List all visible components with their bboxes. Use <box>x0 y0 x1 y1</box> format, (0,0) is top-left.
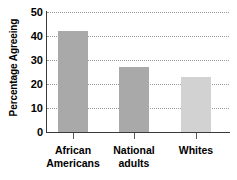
bar-national-adults <box>119 67 149 132</box>
x-category-label-whites: Whites <box>146 144 237 157</box>
y-tick-label-30: 30 <box>1 55 43 66</box>
bar-chart: Percentage Agreeing 50 40 30 20 10 0 Afr… <box>0 0 237 180</box>
y-tick-label-0: 0 <box>1 127 43 138</box>
x-category-label-line1: Whites <box>179 144 213 156</box>
y-tick-label-10: 10 <box>1 103 43 114</box>
x-category-label-line2: adults <box>84 157 184 170</box>
plot-area <box>47 12 229 132</box>
y-axis-line <box>46 11 47 133</box>
x-tick-african-americans <box>73 133 74 139</box>
gridline-50 <box>47 12 229 13</box>
x-tick-whites <box>196 133 197 139</box>
y-tick-label-20: 20 <box>1 79 43 90</box>
bar-african-americans <box>58 31 88 132</box>
x-tick-national-adults <box>134 133 135 139</box>
y-tick-label-40: 40 <box>1 31 43 42</box>
bar-whites <box>181 77 211 132</box>
y-tick-label-50: 50 <box>1 7 43 18</box>
